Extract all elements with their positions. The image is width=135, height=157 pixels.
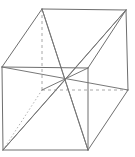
cube-line-drawing [0,0,135,157]
cube-figure-container [0,0,135,157]
